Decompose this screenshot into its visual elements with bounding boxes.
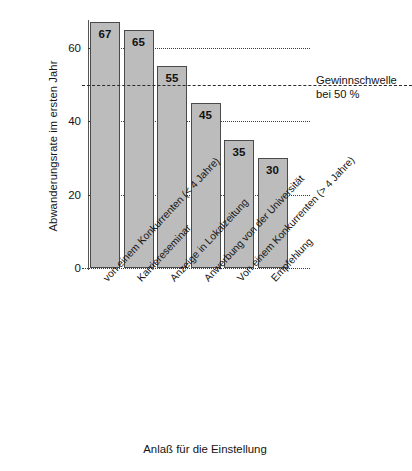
y-axis-line [88,20,89,270]
bar-value-label-2: 65 [125,36,153,48]
x-axis-title: Anlaß für die Einstellung [0,443,410,455]
gridline-60 [88,48,310,49]
y-tick-label-20: 20 [68,189,81,201]
bar-value-label-3: 55 [158,72,186,84]
y-tick-label-0: 0 [75,262,81,274]
bar-value-label-4: 45 [192,109,220,121]
break-even-annotation: Gewinnschwelle bei 50 % [316,74,397,101]
bar-value-label-1: 67 [91,28,119,40]
bar-1[interactable]: 67 [90,22,120,268]
y-axis-title: Abwanderungsrate im ersten Jahr [47,21,59,271]
bar-value-label-6: 30 [259,164,287,176]
y-tick-label-60: 60 [68,42,81,54]
y-tick-label-40: 40 [68,115,81,127]
break-even-label-line2: bei 50 % [316,88,397,102]
break-even-label-line1: Gewinnschwelle [316,74,397,88]
bar-value-label-5: 35 [225,146,253,158]
